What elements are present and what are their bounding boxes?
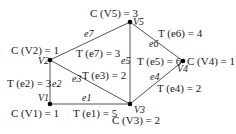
edge-label-e6: e6 xyxy=(149,38,158,49)
cost-label-v1: C (V1) = 1 xyxy=(11,107,59,120)
weight-label-e6: T (e6) = 4 xyxy=(158,27,203,40)
weight-label-e2: T (e2) = 3 xyxy=(7,77,52,90)
weight-label-e3: T (e3) = 2 xyxy=(82,69,126,82)
node-v5 xyxy=(128,20,133,25)
cost-label-v2: C (V2) = 1 xyxy=(11,44,59,57)
cost-label-v4: C (V4) = 1 xyxy=(187,55,235,68)
edge-label-e3: e3 xyxy=(72,73,81,84)
edge-label-e5: e5 xyxy=(121,55,130,66)
weight-label-e4: T (e4) = 2 xyxy=(157,82,201,95)
edge-label-e4: e4 xyxy=(150,71,159,82)
node-v3 xyxy=(128,102,133,107)
cost-label-v3: C (V3) = 2 xyxy=(112,114,160,127)
weight-label-e5: T (e5) = 6 xyxy=(137,55,182,68)
edge-label-e2: e2 xyxy=(52,78,61,89)
node-label-v1: V1 xyxy=(38,92,49,103)
edge-label-e7: e7 xyxy=(84,28,94,39)
node-label-v2: V2 xyxy=(38,55,49,66)
cost-label-v5: C (V5) = 3 xyxy=(90,7,139,20)
edge-label-e1: e1 xyxy=(82,92,91,103)
graph-diagram: V1 V2 V3 V4 V5 C (V1) = 1 C (V2) = 1 C (… xyxy=(0,0,236,134)
weight-label-e1: T (e1) = 5 xyxy=(73,107,118,120)
weight-label-e7: T (e7) = 3 xyxy=(76,47,121,60)
